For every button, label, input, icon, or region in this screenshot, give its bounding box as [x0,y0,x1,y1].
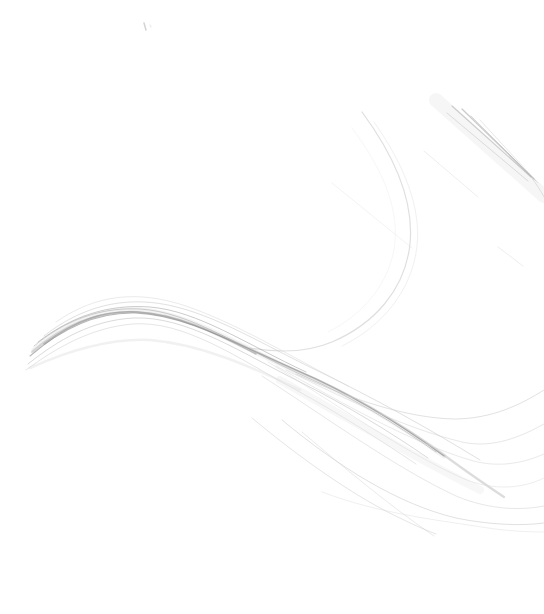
speck-dash [144,23,146,30]
big-arc-inner [328,128,395,332]
fan-haze-band [280,380,480,490]
big-arc-echo [342,122,418,346]
faint-diagonal-mid [424,151,478,197]
bundle-strand-lower-light [26,324,416,464]
fan-strand-steep-tip [252,418,436,534]
topright-haze-band [436,100,544,196]
big-arc-main [250,112,411,351]
topright-strand-3 [447,113,528,181]
speck-dot [150,25,151,27]
faint-diagonal-lower [498,247,523,266]
bundle-underside-haze [30,340,300,390]
fan-strand-bottom-flat [322,492,544,532]
topright-strand-1 [452,106,531,177]
fan-strand-steep-cross [302,432,434,536]
abstract-art-canvas [0,0,544,614]
faint-diagonal-left [332,183,412,248]
abstract-swirl-art [0,0,544,614]
